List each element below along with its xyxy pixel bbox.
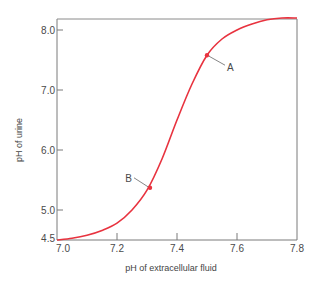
x-axis-ticks: 7.07.27.47.67.8 [56, 233, 304, 254]
y-axis-title: pH of urine [14, 118, 24, 162]
chart: 4.55.06.07.08.0 7.07.27.47.67.8 AB pH of… [0, 0, 319, 284]
y-tick-label: 7.0 [41, 85, 55, 96]
y-axis-ticks: 4.55.06.07.08.0 [41, 25, 63, 244]
y-tick-label: 8.0 [41, 25, 55, 36]
y-tick-label: 4.5 [41, 233, 55, 244]
point-b-label: B [125, 173, 132, 184]
x-tick-label: 7.0 [56, 243, 70, 254]
point-a-leader [209, 56, 225, 65]
x-tick-label: 7.8 [290, 243, 304, 254]
point-a-label: A [227, 62, 234, 73]
plot-frame [57, 19, 297, 240]
data-curve [57, 18, 297, 240]
x-tick-label: 7.6 [230, 243, 244, 254]
point-a-marker [205, 53, 209, 57]
point-b-marker [148, 186, 152, 190]
y-tick-label: 6.0 [41, 145, 55, 156]
x-axis-title: pH of extracellular fluid [125, 263, 217, 273]
annotations: AB [125, 53, 234, 190]
x-tick-label: 7.2 [110, 243, 124, 254]
y-tick-label: 5.0 [41, 205, 55, 216]
x-tick-label: 7.4 [170, 243, 184, 254]
point-b-leader [134, 178, 148, 187]
